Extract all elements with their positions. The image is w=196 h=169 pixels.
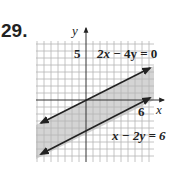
- y-tick-5: 5: [74, 46, 81, 61]
- graph: y x 5 6 2x − 4y = 0 x − 2y = 6: [0, 0, 196, 169]
- y-axis-label: y: [70, 23, 78, 38]
- equation-label-1: 2x − 4y = 0: [96, 46, 157, 61]
- eq1-part-a: 2x: [96, 46, 111, 61]
- shaded-region: [36, 66, 154, 159]
- x-tick-6: 6: [138, 104, 145, 119]
- eq1-part-b: − 4y = 0: [110, 46, 157, 61]
- x-axis-label: x: [155, 102, 162, 117]
- equation-label-2: x − 2y = 6: [111, 128, 166, 143]
